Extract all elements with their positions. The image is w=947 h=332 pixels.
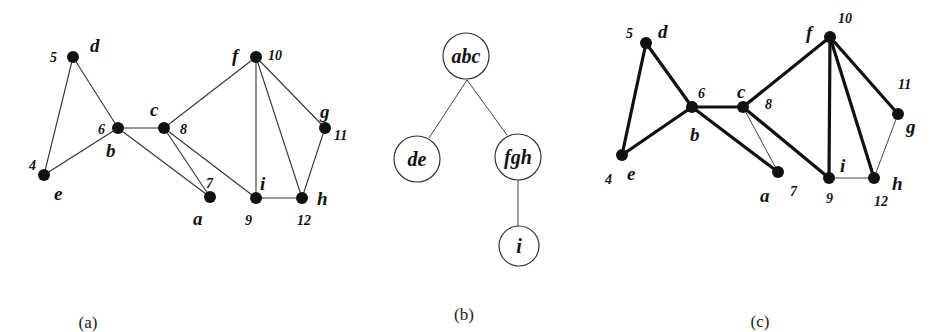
edge-b-a (118, 128, 210, 197)
label-number: 5 (626, 26, 633, 41)
edge-c-a (743, 107, 778, 172)
edge-f-i (829, 37, 830, 178)
caption-c: (c) (751, 312, 770, 331)
edge-c-i (743, 107, 829, 178)
label-letter: a (760, 185, 770, 206)
edge-f-g (256, 57, 325, 128)
label-number: 10 (268, 48, 282, 63)
node-b (112, 122, 124, 134)
edge-c-f (164, 57, 256, 128)
label-letter: f (232, 45, 240, 66)
tree-edge-abc-fgh (467, 80, 507, 135)
edge-b-a (692, 107, 778, 172)
node-d (67, 51, 79, 63)
label-letter: h (317, 188, 328, 209)
node-g (892, 108, 904, 120)
node-a (772, 166, 784, 178)
tree-node-de: de (394, 136, 440, 182)
tree-label: de (408, 148, 427, 170)
label-letter: b (690, 124, 700, 145)
node-b (686, 101, 698, 113)
tree-node-abc: abc (443, 33, 489, 79)
caption-b: (b) (454, 305, 474, 324)
node-f (824, 31, 836, 43)
label-number: 7 (790, 184, 798, 199)
edge-d-e (44, 57, 73, 175)
edge-f-h (830, 37, 874, 178)
label-letter: e (54, 183, 63, 204)
label-letter: b (106, 140, 116, 161)
label-letter: h (892, 173, 903, 194)
label-letter: g (319, 101, 330, 122)
node-d (640, 37, 652, 49)
tree-edge-abc-de (429, 80, 467, 138)
label-letter: a (193, 208, 203, 229)
node-a (204, 191, 216, 203)
label-letter: f (806, 22, 814, 43)
edge-e-b (622, 107, 692, 155)
graph-c-bold (622, 37, 898, 178)
label-number: 5 (50, 50, 57, 65)
edge-g-h (874, 114, 898, 178)
node-e (616, 149, 628, 161)
edge-c-a (164, 128, 210, 197)
node-i (823, 172, 835, 184)
tree-label: i (516, 235, 522, 257)
label-number: 11 (334, 128, 347, 143)
label-number: 9 (245, 213, 252, 228)
edge-c-f (743, 37, 830, 107)
node-h (868, 172, 880, 184)
edge-d-b (73, 57, 118, 128)
label-number: 7 (206, 176, 214, 191)
label-number: 4 (604, 172, 612, 187)
graph-c-thin (743, 107, 898, 178)
tree-node-fgh: fgh (495, 134, 541, 180)
tree-label: fgh (504, 146, 532, 169)
label-number: 4 (28, 158, 36, 173)
label-letter: e (627, 163, 636, 184)
figure-canvas: d 5 e 4 b 6 c 8 a 7 f 10 g 11 i 9 h 12 (… (0, 0, 947, 332)
node-c (158, 122, 170, 134)
node-g (319, 122, 331, 134)
label-letter: d (90, 35, 100, 56)
label-letter: d (658, 21, 668, 42)
label-number: 12 (874, 194, 888, 209)
label-number: 9 (826, 191, 833, 206)
label-number: 11 (898, 77, 911, 92)
nodes-c (616, 31, 904, 184)
caption-a: (a) (79, 313, 98, 332)
label-letter: c (737, 81, 746, 102)
edge-f-g (830, 37, 898, 114)
label-number: 10 (838, 11, 852, 26)
tree-node-i: i (499, 226, 539, 266)
node-f (250, 51, 262, 63)
label-number: 8 (180, 122, 187, 137)
node-e (38, 169, 50, 181)
label-letter: g (905, 116, 916, 137)
tree-label: abc (452, 45, 481, 67)
edge-d-e (622, 43, 646, 155)
label-number: 6 (698, 86, 705, 101)
label-letter: i (260, 173, 266, 194)
node-h (296, 192, 308, 204)
label-number: 8 (765, 97, 772, 112)
label-letter: c (150, 99, 159, 120)
label-number: 6 (98, 122, 105, 137)
label-letter: i (840, 155, 846, 176)
node-c (737, 101, 749, 113)
edge-d-b (646, 43, 692, 107)
label-number: 12 (297, 213, 311, 228)
